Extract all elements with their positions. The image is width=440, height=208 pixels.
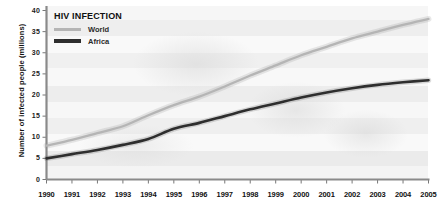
chart-legend: HIV INFECTION World Africa	[54, 11, 122, 46]
legend-swatch-world-icon	[54, 28, 81, 31]
legend-label-africa: Africa	[88, 37, 109, 46]
hiv-infection-chart: Number of infected people (millions) 051…	[0, 0, 440, 208]
legend-swatch-africa-icon	[54, 39, 81, 42]
legend-entry-africa: Africa	[54, 37, 122, 46]
legend-title: HIV INFECTION	[54, 11, 122, 21]
series-halo-africa	[47, 80, 429, 158]
legend-entry-world: World	[54, 25, 122, 34]
legend-label-world: World	[88, 25, 109, 34]
